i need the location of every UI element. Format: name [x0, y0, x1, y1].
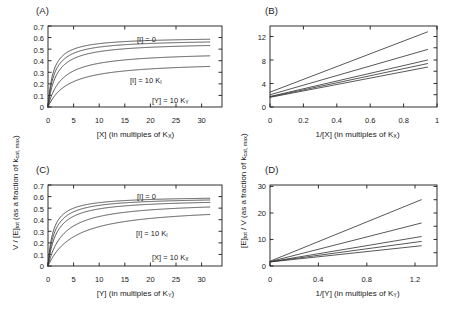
panel-a-plot	[0, 0, 234, 160]
figure-root: V / [E]tot (as a fraction of kcat, max) …	[0, 0, 467, 319]
data-curve	[270, 237, 421, 262]
panel-d: (D) 30 20 10 0 0 0.4 0.8 1.2 1/[Y] (in m…	[234, 159, 467, 319]
panel-a: (A) 0.7 0.6 0.5 0.4 0.3 0.2 0.1 0 0 5 10…	[0, 0, 234, 160]
data-curve	[48, 39, 210, 107]
data-curve	[48, 46, 210, 107]
panel-d-plot	[234, 159, 467, 319]
data-curve	[270, 64, 428, 97]
data-curve	[48, 66, 210, 107]
panel-b-curves	[270, 32, 428, 97]
panel-b-plot	[234, 0, 467, 160]
panel-c-plot	[0, 159, 234, 319]
data-curve	[48, 42, 210, 107]
data-curve	[270, 32, 428, 92]
data-curve	[48, 56, 210, 107]
data-curve	[270, 67, 428, 97]
panel-d-curves	[270, 200, 421, 262]
data-curve	[270, 246, 421, 262]
panel-c-curves	[48, 198, 210, 266]
panel-b: (B) 12 8 4 0 0 0.2 0.4 0.6 0.8 1 1/[X] (…	[234, 0, 467, 160]
panel-a-curves	[48, 39, 210, 107]
data-curve	[48, 200, 210, 266]
data-curve	[270, 49, 428, 94]
data-curve	[48, 198, 210, 266]
data-curve	[48, 214, 210, 266]
panel-c: (C) 0.7 0.6 0.5 0.4 0.3 0.2 0.1 0 0 5 10…	[0, 159, 234, 319]
data-curve	[270, 223, 421, 262]
data-curve	[270, 60, 428, 96]
